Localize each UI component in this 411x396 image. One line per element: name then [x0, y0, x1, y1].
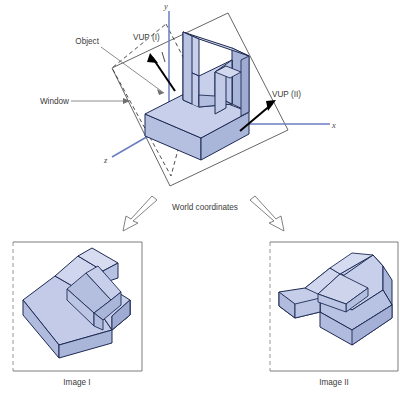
image2-panel: Image II [270, 242, 398, 387]
transition-group: World coordinates [123, 196, 284, 231]
y-axis-label: y [163, 1, 168, 11]
world-coordinates-label: World coordinates [172, 203, 238, 212]
vup1-tail-tick [162, 52, 165, 62]
image1-caption: Image I [63, 378, 90, 387]
vup2-label: VUP (II) [272, 90, 301, 99]
window-label: Window [40, 97, 69, 106]
z-axis-label: z [103, 155, 108, 165]
vup1-label: VUP (I) [133, 33, 160, 42]
figure-container: VUP (I) Object Window VUP (II) y x z Wor… [0, 0, 411, 396]
image1-panel: Image I [13, 242, 142, 387]
x-axis-label: x [331, 120, 336, 130]
object-label: Object [75, 37, 99, 46]
image1-object-solid [23, 248, 130, 358]
vup2-arrowhead [266, 100, 276, 111]
world-coordinate-scene: VUP (I) Object Window VUP (II) y x z [40, 1, 336, 186]
figure-svg: VUP (I) Object Window VUP (II) y x z Wor… [0, 0, 411, 396]
object-leader-line [101, 47, 164, 93]
right-flow-arrow [250, 196, 284, 231]
image2-caption: Image II [319, 378, 349, 387]
image2-object-solid [279, 253, 392, 345]
vup1-arrowhead [147, 53, 158, 63]
left-flow-arrow [123, 196, 157, 231]
world-object-solid [145, 32, 249, 160]
